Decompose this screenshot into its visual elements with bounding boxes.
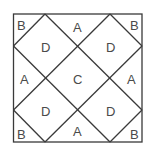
- label-top-center: A: [73, 20, 82, 35]
- label-middle-left: A: [20, 72, 29, 87]
- label-top-right: B: [130, 18, 139, 33]
- label-bottom-right: B: [130, 127, 139, 142]
- label-top-left: B: [17, 18, 26, 33]
- label-middle-right: A: [127, 72, 136, 87]
- label-center: C: [73, 72, 82, 87]
- label-lower-left-diamond: D: [41, 104, 50, 119]
- square-diagram: B A B D D A C A D D B A B: [0, 0, 153, 153]
- label-upper-right-diamond: D: [106, 40, 115, 55]
- label-lower-right-diamond: D: [106, 104, 115, 119]
- label-upper-left-diamond: D: [41, 40, 50, 55]
- label-bottom-left: B: [17, 127, 26, 142]
- label-bottom-center: A: [73, 124, 82, 139]
